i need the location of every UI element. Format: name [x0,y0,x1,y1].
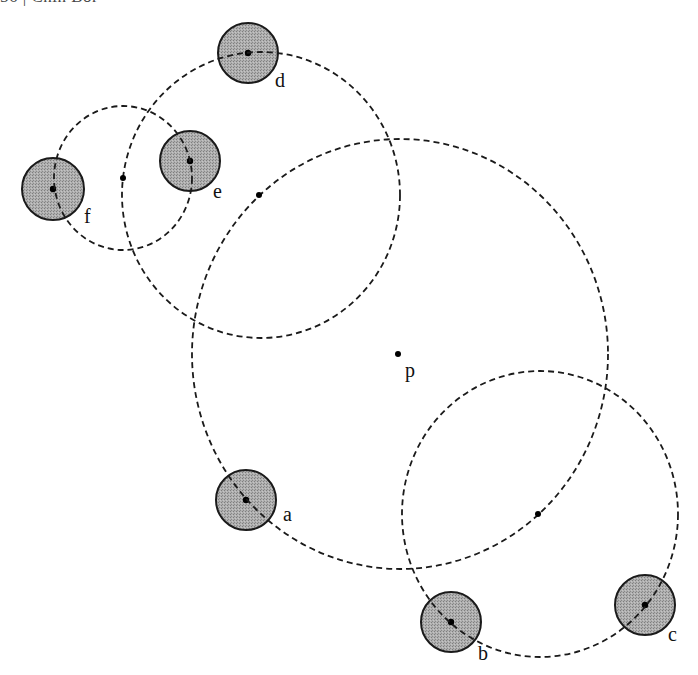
dots-layer [120,175,541,517]
dashed-circles-layer [54,52,678,657]
center-dot-center-f-circle [120,175,126,181]
label-a: a [283,503,292,525]
label-p: p [405,359,415,382]
center-dot-center-bc-circle [535,511,541,517]
label-b: b [478,642,488,664]
center-dot-center-d-circle [256,192,262,198]
label-e: e [213,180,222,202]
circle-diagram: abcdefp [0,0,698,675]
disks-layer [22,23,675,652]
label-f: f [84,205,91,227]
center-dot-p [395,351,401,357]
label-d: d [275,69,285,91]
label-c: c [668,623,677,645]
